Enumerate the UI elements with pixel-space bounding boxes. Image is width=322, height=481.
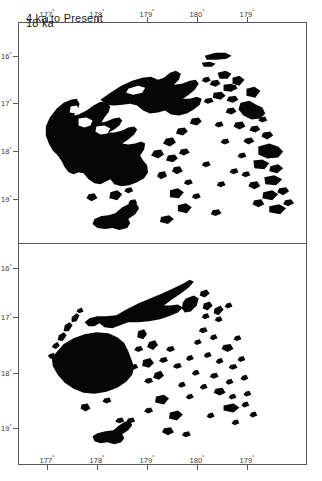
x-axis-tick-label: 179° <box>240 8 255 19</box>
y-axis-tick <box>13 373 18 374</box>
x-axis-tick-label: 177° <box>40 454 55 465</box>
y-axis-tick <box>13 428 18 429</box>
x-axis-tick-label: 180° <box>190 8 205 19</box>
panel-title-4ka: 4 ka to Present <box>26 12 103 24</box>
y-axis-tick-label: 16° <box>1 51 12 62</box>
x-axis-tick-label: 179° <box>240 454 255 465</box>
x-axis-tick-label: 178° <box>90 454 105 465</box>
x-axis-tick <box>97 465 98 470</box>
y-axis-tick-label: 16° <box>1 263 12 274</box>
x-axis-tick <box>47 465 48 470</box>
x-axis-tick-label: 179° <box>140 8 155 19</box>
map-panel-18ka <box>18 22 307 243</box>
y-axis-tick-label: 18° <box>1 146 12 157</box>
x-axis-tick-label: 179° <box>140 454 155 465</box>
y-axis-tick <box>13 103 18 104</box>
y-axis-tick-label: 19° <box>1 194 12 205</box>
y-axis-tick <box>13 317 18 318</box>
x-axis-tick <box>197 465 198 470</box>
y-axis-tick <box>13 56 18 57</box>
map-panel-4ka <box>18 243 307 465</box>
x-axis-tick <box>247 465 248 470</box>
x-axis-tick <box>147 465 148 470</box>
y-axis-tick <box>13 268 18 269</box>
y-axis-tick <box>13 199 18 200</box>
y-axis-tick-label: 19° <box>1 423 12 434</box>
y-axis-tick <box>13 151 18 152</box>
y-axis-tick-label: 17° <box>1 98 12 109</box>
figure-canvas: 18 ka <box>0 0 322 481</box>
map-landmass-18ka <box>19 23 306 243</box>
x-axis-tick-label: 180° <box>190 454 205 465</box>
y-axis-tick-label: 17° <box>1 312 12 323</box>
map-landmass-4ka <box>19 244 306 464</box>
y-axis-tick-label: 18° <box>1 368 12 379</box>
